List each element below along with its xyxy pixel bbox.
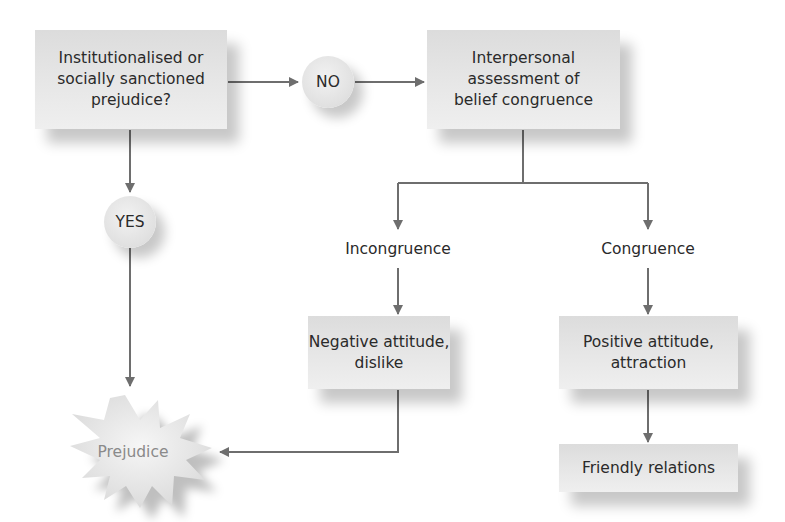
yes-circle: YES: [104, 196, 156, 248]
prejudice-label: Prejudice: [98, 443, 169, 461]
negative-attitude-box: Negative attitude, dislike: [308, 316, 450, 389]
friendly-relations-box: Friendly relations: [559, 444, 738, 492]
no-circle: NO: [302, 56, 354, 108]
question-box: Institutionalised or socially sanctioned…: [35, 30, 227, 129]
friendly-relations-text: Friendly relations: [582, 458, 715, 479]
assessment-box: Interpersonal assessment of belief congr…: [427, 30, 620, 129]
arrow-negative-to-prejudice: [220, 390, 398, 452]
negative-attitude-text: Negative attitude, dislike: [309, 332, 450, 374]
positive-attitude-text: Positive attitude, attraction: [583, 332, 714, 374]
no-label: NO: [316, 73, 340, 91]
incongruence-label: Incongruence: [345, 240, 451, 258]
assessment-text: Interpersonal assessment of belief congr…: [454, 48, 593, 111]
question-text: Institutionalised or socially sanctioned…: [57, 48, 205, 111]
positive-attitude-box: Positive attitude, attraction: [559, 316, 738, 389]
yes-label: YES: [115, 213, 144, 231]
congruence-label: Congruence: [601, 240, 695, 258]
